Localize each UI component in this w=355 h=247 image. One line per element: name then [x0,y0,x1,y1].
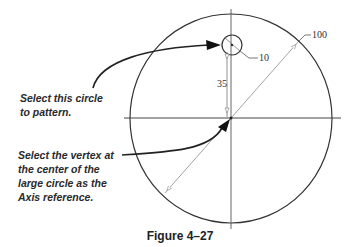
callout-line: Select the vertex at [18,148,114,162]
diameter-leader-100 [298,35,311,42]
arrowhead-icon [206,40,221,50]
callout-arrow-circle [93,45,209,88]
sketch-drawing [0,0,355,247]
callout-select-vertex: Select the vertex at the center of the l… [18,148,114,204]
figure-caption: Figure 4–27 [0,229,355,243]
callout-line: Select this circle [20,91,103,105]
dimension-label-10: 10 [259,53,269,63]
dimension-label-100: 100 [312,30,327,40]
callout-select-circle: Select this circle to pattern. [20,91,103,119]
dimension-label-35: 35 [217,79,227,89]
callout-line: Axis reference. [18,190,114,204]
callout-line: large circle as the [18,176,114,190]
diameter-leader-10 [240,51,258,58]
callout-arrow-vertex [122,128,222,155]
callout-line: the center of the [18,162,114,176]
callout-line: to pattern. [20,105,103,119]
